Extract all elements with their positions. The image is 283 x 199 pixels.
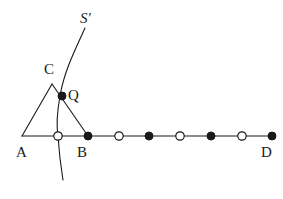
geometry-figure: S′ C Q A B D (0, 0, 283, 199)
marker-hollow-2 (115, 132, 123, 140)
marker-filled-B (84, 132, 92, 140)
label-s-prime: S′ (80, 11, 91, 26)
label-d: D (261, 145, 272, 160)
label-c: C (44, 62, 54, 77)
marker-filled-Q (58, 92, 66, 100)
marker-hollow-6 (238, 132, 246, 140)
marker-filled-3 (145, 132, 153, 140)
marker-filled-5 (207, 132, 215, 140)
label-b: B (77, 145, 87, 160)
figure-canvas (0, 0, 283, 199)
marker-hollow-4 (176, 132, 184, 140)
triangle-edge-AC (22, 84, 52, 136)
label-q: Q (68, 88, 79, 103)
label-a: A (16, 145, 27, 160)
marker-hollow-0 (54, 132, 62, 140)
marker-filled-D (268, 132, 276, 140)
